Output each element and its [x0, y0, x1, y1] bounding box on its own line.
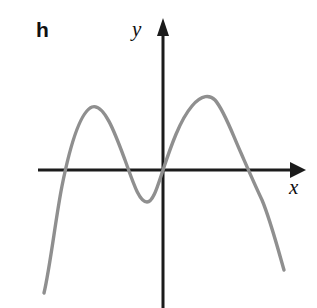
y-axis-arrowhead: [157, 18, 169, 36]
y-axis-label: y: [132, 19, 141, 40]
x-axis-label: x: [289, 177, 298, 198]
panel-label: h: [36, 19, 49, 40]
plot-canvas: [0, 0, 317, 308]
graph-figure: h y x: [0, 0, 317, 308]
